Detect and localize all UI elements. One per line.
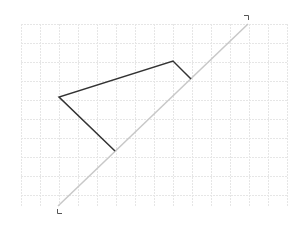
corner-mark-top-right-icon bbox=[244, 16, 249, 21]
corner-mark-bottom-left-icon bbox=[58, 209, 63, 214]
diagram-canvas bbox=[0, 0, 303, 234]
diagonal-line bbox=[58, 24, 248, 206]
background-grid bbox=[21, 24, 288, 207]
